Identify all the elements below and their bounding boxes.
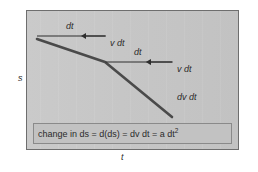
y-axis-label: s	[18, 74, 23, 83]
dv-dt-label: dv dt	[177, 93, 197, 102]
x-axis-label: t	[121, 153, 124, 162]
equation-text: change in ds = d(ds) = dv dt = a dt2	[38, 130, 178, 139]
v-dt-arrow-1-label: v dt	[110, 39, 125, 48]
dt-run-1-label: dt	[66, 22, 74, 31]
diagram-canvas	[0, 0, 258, 172]
v-dt-arrow-2-label: v dt	[177, 65, 192, 74]
figure-container: s t dt v dt dt v dt dv dt change in ds =…	[0, 0, 258, 172]
equation-lead: change in ds = d(ds) = dv dt = a dt	[38, 129, 175, 139]
equation-exponent: 2	[175, 127, 179, 134]
dt-run-2-label: dt	[134, 48, 142, 57]
